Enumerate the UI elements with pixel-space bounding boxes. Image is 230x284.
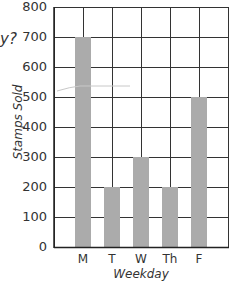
pencil-stroke xyxy=(57,86,130,91)
y-tick-label: 800 xyxy=(22,0,47,14)
bar-f xyxy=(191,97,207,247)
x-tick-label: M xyxy=(68,252,98,266)
x-tick-label: Th xyxy=(155,252,185,266)
bar-m xyxy=(75,37,91,247)
y-tick-label: 100 xyxy=(22,210,47,224)
x-tick-label: F xyxy=(184,252,214,266)
x-axis-label: Weekday xyxy=(54,267,228,281)
x-tick-label: T xyxy=(97,252,127,266)
y-tick-label: 400 xyxy=(22,120,47,134)
x-tick-label: W xyxy=(126,252,156,266)
y-tick-label: 200 xyxy=(22,180,47,194)
y-tick-label: 600 xyxy=(22,60,47,74)
bar-w xyxy=(133,157,149,247)
y-axis-label: Stamps Sold xyxy=(11,82,25,162)
bar-t xyxy=(104,187,120,247)
y-tick-label: 500 xyxy=(22,90,47,104)
bar-th xyxy=(162,187,178,247)
y-tick-label: 700 xyxy=(22,30,47,44)
y-tick-label: 300 xyxy=(22,150,47,164)
bar-chart: y? 0100200300400500600700800 MTWThF Stam… xyxy=(0,0,230,284)
y-tick-label: 0 xyxy=(39,240,47,254)
